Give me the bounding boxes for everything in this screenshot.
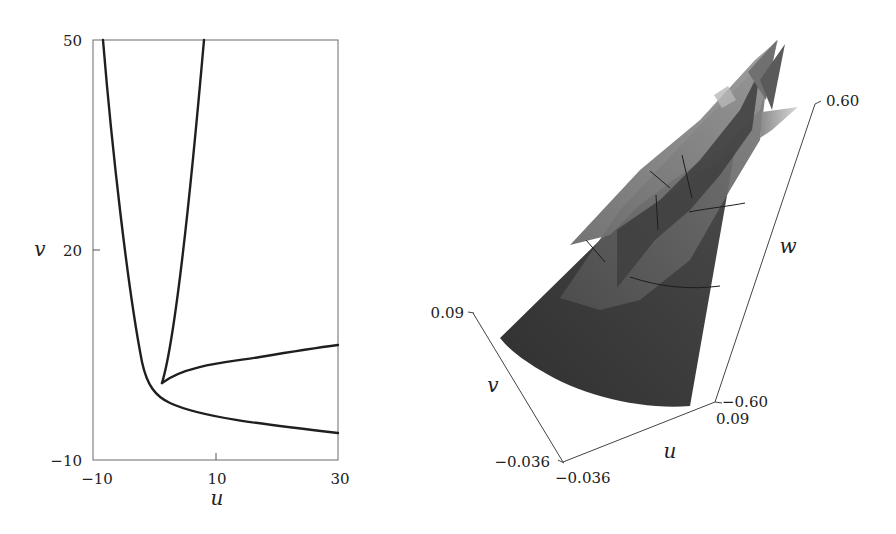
y-tick-label-minus10: −10 xyxy=(50,452,82,470)
plot-frame xyxy=(93,40,338,460)
w-tick-label-min: −0.60 xyxy=(722,393,768,411)
u-axis-line xyxy=(563,402,715,462)
x-tick-label-minus10: −10 xyxy=(81,470,113,488)
figure: 50 20 −10 −10 10 30 u v xyxy=(0,0,896,534)
w-tick-label-max: 0.60 xyxy=(826,92,859,110)
w-axis-label: w xyxy=(779,234,796,258)
v-tick-label-min: −0.036 xyxy=(494,453,550,471)
x-tick-label-30: 30 xyxy=(330,470,349,488)
y-tick-label-20: 20 xyxy=(63,242,82,260)
y-axis-label: v xyxy=(34,237,46,261)
curve-branch-cusp-right xyxy=(162,345,338,383)
surface-fin-right xyxy=(760,107,798,138)
u-tick-label-max: 0.09 xyxy=(716,410,749,428)
u-tick-label-min: −0.036 xyxy=(555,469,611,487)
curve-branch-left xyxy=(103,40,338,433)
right-plot: 0.60 −0.60 0.09 −0.036 0.09 −0.036 w u v xyxy=(431,40,860,487)
w-axis-bottom-tick xyxy=(715,402,722,403)
x-axis-label: u xyxy=(211,486,224,510)
curve-branch-cusp-up xyxy=(162,40,204,383)
y-tick-label-50: 50 xyxy=(63,32,82,50)
u-axis-label: u xyxy=(664,439,677,463)
left-plot: 50 20 −10 −10 10 30 u v xyxy=(34,32,349,510)
v-axis-top-tick xyxy=(468,312,474,313)
v-tick-label-max: 0.09 xyxy=(431,304,464,322)
v-axis-label: v xyxy=(487,373,499,397)
